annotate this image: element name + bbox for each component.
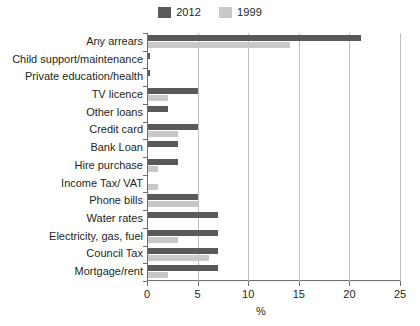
- category-label: Credit card: [0, 123, 143, 135]
- x-axis-tick: [248, 281, 249, 286]
- bar-group: [148, 177, 400, 190]
- y-axis-tick: [143, 263, 147, 264]
- bar-group: [148, 70, 400, 83]
- x-axis-tick-label: 20: [334, 288, 364, 300]
- category-label: Electricity, gas, fuel: [0, 230, 143, 242]
- category-label: Hire purchase: [0, 159, 143, 171]
- x-axis-tick: [400, 281, 401, 286]
- y-axis-tick: [143, 68, 147, 69]
- bar-group: [148, 35, 400, 48]
- y-axis-tick: [143, 33, 147, 34]
- legend-entry-1999: 1999: [219, 7, 262, 18]
- bar-group: [148, 248, 400, 261]
- bar-group: [148, 124, 400, 137]
- y-axis-tick: [143, 104, 147, 105]
- y-axis-tick: [143, 157, 147, 158]
- y-axis-tick: [143, 192, 147, 193]
- category-label: Phone bills: [0, 194, 143, 206]
- bar-group: [148, 141, 400, 154]
- y-axis-tick: [143, 175, 147, 176]
- bar-group: [148, 265, 400, 278]
- x-axis-tick-label: 15: [284, 288, 314, 300]
- bar-1999: [148, 255, 209, 261]
- bar-1999: [148, 237, 178, 243]
- bar-group: [148, 53, 400, 66]
- category-label: TV licence: [0, 88, 143, 100]
- x-axis-tick-label: 10: [233, 288, 263, 300]
- bar-spacer: [148, 112, 400, 113]
- bar-1999: [148, 131, 178, 137]
- bar-1999: [148, 272, 168, 278]
- legend-swatch-2012: [158, 7, 171, 18]
- legend-swatch-1999: [219, 7, 232, 18]
- category-label: Water rates: [0, 212, 143, 224]
- category-label: Council Tax: [0, 247, 143, 259]
- bar-spacer: [148, 165, 400, 166]
- bar-spacer: [148, 271, 400, 272]
- legend-label-2012: 2012: [176, 7, 201, 18]
- bar-spacer: [148, 236, 400, 237]
- bar-group: [148, 230, 400, 243]
- bar-spacer: [148, 130, 400, 131]
- bar-spacer: [148, 76, 400, 77]
- x-axis-tick: [198, 281, 199, 286]
- y-axis-tick: [143, 228, 147, 229]
- x-axis-tick: [147, 281, 148, 286]
- category-label: Other loans: [0, 106, 143, 118]
- category-label: Income Tax/ VAT: [0, 177, 143, 189]
- category-label: Bank Loan: [0, 141, 143, 153]
- bar-group: [148, 88, 400, 101]
- bar-1999: [148, 184, 158, 190]
- x-axis-line: [147, 280, 400, 281]
- bar-chart: 2012 1999 Any arrearsChild support/maint…: [0, 0, 420, 326]
- chart-legend: 2012 1999: [0, 7, 420, 18]
- x-axis-tick-label: 0: [132, 288, 162, 300]
- x-axis-title: %: [256, 305, 266, 317]
- y-axis-tick: [143, 246, 147, 247]
- bar-1999: [148, 166, 158, 172]
- y-axis-tick: [143, 51, 147, 52]
- gridline: [400, 33, 401, 281]
- bar-group: [148, 106, 400, 119]
- bar-spacer: [148, 59, 400, 60]
- bar-1999: [148, 201, 198, 207]
- category-label: Mortgage/rent: [0, 265, 143, 277]
- bar-group: [148, 159, 400, 172]
- x-axis-tick: [349, 281, 350, 286]
- legend-label-1999: 1999: [237, 7, 262, 18]
- bar-spacer: [148, 218, 400, 219]
- bar-spacer: [148, 147, 400, 148]
- plot-area: [147, 33, 400, 281]
- bar-spacer: [148, 94, 400, 95]
- bar-group: [148, 212, 400, 225]
- category-label: Any arrears: [0, 35, 143, 47]
- x-axis-tick-label: 5: [183, 288, 213, 300]
- x-axis-tick-label: 25: [385, 288, 415, 300]
- bar-1999: [148, 95, 168, 101]
- y-axis-tick: [143, 139, 147, 140]
- bar-1999: [148, 42, 290, 48]
- bar-group: [148, 194, 400, 207]
- x-axis-tick: [299, 281, 300, 286]
- category-label: Private education/health: [0, 70, 143, 82]
- y-axis-tick: [143, 210, 147, 211]
- category-label: Child support/maintenance: [0, 53, 143, 65]
- bar-spacer: [148, 183, 400, 184]
- y-axis-tick: [143, 122, 147, 123]
- y-axis-tick: [143, 86, 147, 87]
- legend-entry-2012: 2012: [158, 7, 201, 18]
